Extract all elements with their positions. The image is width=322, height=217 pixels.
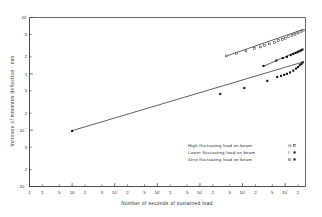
legend-beam-code: G xyxy=(288,143,292,148)
data-point xyxy=(236,52,238,54)
chart-background xyxy=(0,0,322,217)
data-point xyxy=(297,32,299,34)
data-point xyxy=(290,54,292,56)
data-point xyxy=(259,46,261,48)
legend-beam-code: B xyxy=(288,157,291,162)
chart-figure: 125102510²2510³2510⁴2510⁵2510⁶2 10⁻²2510… xyxy=(0,0,322,217)
data-point xyxy=(292,53,294,55)
log-log-scatter-chart: 125102510²2510³2510⁴2510⁵2510⁶2 10⁻²2510… xyxy=(0,0,322,217)
data-point xyxy=(295,68,297,70)
data-point xyxy=(284,37,286,39)
data-point xyxy=(264,44,266,46)
data-point xyxy=(253,48,255,50)
legend-marker xyxy=(294,144,296,146)
data-point xyxy=(275,60,277,62)
data-point xyxy=(286,73,288,75)
data-point xyxy=(273,41,275,43)
data-point xyxy=(289,71,291,73)
data-point xyxy=(262,65,264,67)
data-point xyxy=(269,43,271,45)
data-point xyxy=(219,93,221,95)
data-point xyxy=(286,56,288,58)
data-point xyxy=(302,61,304,63)
data-point xyxy=(278,40,280,42)
data-point xyxy=(296,51,298,53)
data-point xyxy=(291,35,293,37)
data-point xyxy=(266,80,268,82)
legend-label: Zero fluctuating load on beam xyxy=(188,157,252,162)
data-point xyxy=(245,50,247,52)
tick-label: 10 xyxy=(70,190,75,195)
data-point xyxy=(297,66,299,68)
data-point xyxy=(294,52,296,54)
legend-marker xyxy=(294,158,296,160)
data-point xyxy=(283,74,285,76)
data-point xyxy=(301,48,303,50)
data-point xyxy=(292,70,294,72)
data-point xyxy=(276,76,278,78)
data-point xyxy=(226,55,228,57)
data-point xyxy=(302,29,304,31)
legend-label: High fluctuating load on beam xyxy=(188,143,252,148)
legend-marker xyxy=(294,151,296,153)
data-point xyxy=(300,31,302,33)
legend-beam-code: I xyxy=(288,150,289,155)
legend-label: Lower fluctuating load on beam xyxy=(188,150,255,155)
x-axis-title: Number of seconds of sustained load xyxy=(121,201,213,206)
data-point xyxy=(288,36,290,38)
data-point xyxy=(294,34,296,36)
data-point xyxy=(71,130,73,132)
data-point xyxy=(280,75,282,77)
data-point xyxy=(243,87,245,89)
data-point xyxy=(281,38,283,40)
data-point xyxy=(282,57,284,59)
y-axis-title: Increase of minimum deflection - mm xyxy=(10,55,15,146)
